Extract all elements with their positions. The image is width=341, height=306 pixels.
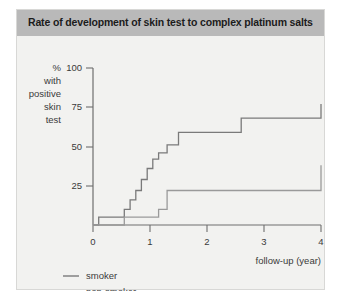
y-tick-label-75: 75 xyxy=(71,101,82,112)
x-tick-label-4: 4 xyxy=(318,236,323,247)
y-axis-label-line-5: test xyxy=(46,114,62,125)
series-line-smoker xyxy=(93,104,321,225)
y-tick-label-100: 100 xyxy=(66,62,82,73)
plot-area: 100 75 50 25 % with positive skin test 0… xyxy=(17,36,326,291)
y-axis-label-line-1: % xyxy=(53,62,62,73)
x-axis-label: follow-up (year) xyxy=(256,255,321,266)
x-tick-label-0: 0 xyxy=(90,236,95,247)
legend-label-non-smoker: non-smoker xyxy=(86,286,136,291)
series-line-non-smoker xyxy=(93,165,321,225)
chart-svg: 100 75 50 25 % with positive skin test 0… xyxy=(17,36,326,291)
legend-label-smoker: smoker xyxy=(86,270,117,281)
y-axis-label-line-4: skin xyxy=(44,101,61,112)
y-tick-label-50: 50 xyxy=(71,141,82,152)
y-tick-label-25: 25 xyxy=(71,180,82,191)
chart-title: Rate of development of skin test to comp… xyxy=(28,16,313,28)
figure-panel: Rate of development of skin test to comp… xyxy=(16,9,325,290)
x-tick-label-3: 3 xyxy=(261,236,266,247)
x-tick-label-1: 1 xyxy=(147,236,152,247)
x-tick-label-2: 2 xyxy=(204,236,209,247)
chart-title-bar: Rate of development of skin test to comp… xyxy=(17,10,324,36)
y-axis-label-line-2: with xyxy=(43,75,61,86)
y-axis-label-line-3: positive xyxy=(29,88,61,99)
